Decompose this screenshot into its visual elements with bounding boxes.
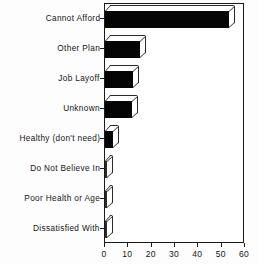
bar [105,71,133,88]
bar-side-face [229,6,235,28]
bar-side-face [113,126,119,148]
category-label: Cannot Afford [45,13,100,23]
bar [105,221,107,238]
bar-slot [104,183,244,213]
bar [105,11,229,28]
bar-slot [104,153,244,183]
x-tick-label: 30 [169,249,179,259]
category-label: Healthy (don't need) [19,133,100,143]
bar-slot [104,93,244,123]
x-tick-mark [104,243,105,247]
bar-slot [104,3,244,33]
bar [105,41,140,58]
x-tick-mark [151,243,152,247]
bar-side-face [107,186,113,208]
x-axis-ticks [104,243,244,248]
bar [105,131,113,148]
bar-side-face [132,96,138,118]
category-label: Unknown [63,103,100,113]
category-axis-labels: Cannot AffordOther PlanJob LayoffUnknown… [0,3,100,243]
bar-slot [104,123,244,153]
category-label-row: Cannot Afford [0,3,100,33]
category-label: Job Layoff [59,73,100,83]
bar [105,191,107,208]
x-tick-mark [197,243,198,247]
bar [105,161,107,178]
x-tick-label: 20 [146,249,156,259]
bars-layer [104,3,244,243]
category-label-row: Job Layoff [0,63,100,93]
x-tick-label: 60 [239,249,249,259]
category-label: Other Plan [57,43,100,53]
category-label: Poor Health or Age [24,193,100,203]
bar [105,101,132,118]
category-label: Do Not Believe In [30,163,100,173]
bar-front-face [105,41,140,58]
x-tick-label: 50 [216,249,226,259]
bar-front-face [105,11,229,28]
x-axis-tick-labels: 0102030405060 [104,249,244,263]
bar-side-face [133,66,139,88]
x-tick-label: 40 [192,249,202,259]
category-label: Dissatisfied With [33,223,100,233]
x-tick-label: 10 [122,249,132,259]
bar-top-face [105,5,234,11]
bar-side-face [140,36,146,58]
bar-side-face [107,156,113,178]
category-label-row: Healthy (don't need) [0,123,100,153]
bar-front-face [105,131,113,148]
bar-slot [104,213,244,243]
category-label-row: Unknown [0,93,100,123]
category-label-row: Other Plan [0,33,100,63]
category-label-row: Poor Health or Age [0,183,100,213]
bar-front-face [105,101,132,118]
category-label-row: Dissatisfied With [0,213,100,243]
x-tick-label: 0 [101,249,106,259]
x-tick-mark [221,243,222,247]
x-tick-mark [244,243,245,247]
bar-slot [104,33,244,63]
bar-chart-screenshot: Cannot AffordOther PlanJob LayoffUnknown… [0,0,259,265]
bar-front-face [105,71,133,88]
x-tick-mark [174,243,175,247]
x-tick-mark [127,243,128,247]
bar-slot [104,63,244,93]
category-label-row: Do Not Believe In [0,153,100,183]
bar-side-face [107,216,113,238]
